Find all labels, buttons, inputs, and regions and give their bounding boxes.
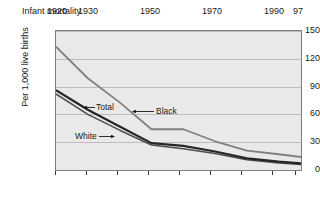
x-tick: [241, 171, 242, 175]
x-tick: [295, 171, 296, 175]
series-annotation-black: Black: [156, 107, 177, 116]
x-tick: [148, 171, 149, 175]
x-tick-label-1920: 1920: [47, 6, 67, 16]
x-tick: [117, 171, 118, 175]
y-tick-label: 60: [274, 109, 320, 118]
x-tick: [179, 171, 180, 175]
series-annotation-total: Total: [96, 103, 114, 112]
x-tick-label-1990: 1990: [264, 6, 284, 16]
y-tick-label: 150: [274, 26, 320, 35]
y-axis-label: Per 1,000 live births: [20, 12, 30, 122]
y-tick-label: 0: [274, 165, 320, 174]
x-tick-label-1930: 1930: [78, 6, 98, 16]
x-tick: [210, 171, 211, 175]
y-tick-label: 90: [274, 82, 320, 91]
y-tick-label: 120: [274, 54, 320, 63]
series-annotation-white: White: [75, 132, 97, 141]
x-tick: [86, 171, 87, 175]
x-tick-label-97: 97: [293, 6, 303, 16]
x-tick-label-1970: 1970: [202, 6, 222, 16]
plot-area: [55, 30, 302, 171]
x-tick: [55, 171, 56, 175]
chart-figure: Infant mortality Per 1,000 live births 1…: [0, 0, 320, 209]
x-tick: [272, 171, 273, 175]
series-lines: [56, 31, 301, 170]
x-tick-label-1950: 1950: [140, 6, 160, 16]
y-tick-label: 30: [274, 137, 320, 146]
